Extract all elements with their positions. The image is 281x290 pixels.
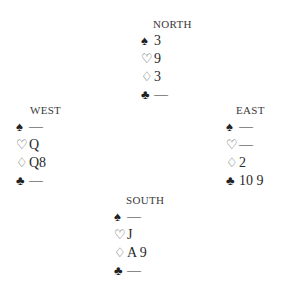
- east-label: EAST: [236, 104, 265, 116]
- north-hand: NORTH ♠3 ♡9 ♢3 ♣—: [141, 18, 192, 104]
- heart-icon: ♡: [114, 226, 127, 244]
- west-label: WEST: [30, 104, 61, 116]
- club-icon: ♣: [16, 172, 29, 190]
- south-clubs: ♣—: [114, 262, 164, 280]
- south-hand: SOUTH ♠— ♡J ♢A 9 ♣—: [114, 194, 164, 280]
- east-hearts: ♡—: [226, 136, 265, 154]
- south-label: SOUTH: [126, 194, 164, 206]
- south-diamonds: ♢A 9: [114, 244, 164, 262]
- diamond-icon: ♢: [16, 154, 29, 172]
- diamond-icon: ♢: [226, 154, 239, 172]
- spade-icon: ♠: [141, 32, 154, 50]
- west-diamonds: ♢Q8: [16, 154, 61, 172]
- west-hearts: ♡Q: [16, 136, 61, 154]
- club-icon: ♣: [226, 172, 239, 190]
- north-clubs: ♣—: [141, 86, 192, 104]
- spade-icon: ♠: [16, 118, 29, 136]
- east-hand: EAST ♠— ♡— ♢2 ♣10 9: [226, 104, 265, 190]
- south-hearts: ♡J: [114, 226, 164, 244]
- spade-icon: ♠: [114, 208, 127, 226]
- diamond-icon: ♢: [114, 244, 127, 262]
- west-spades: ♠—: [16, 118, 61, 136]
- spade-icon: ♠: [226, 118, 239, 136]
- north-label: NORTH: [153, 18, 192, 30]
- diamond-icon: ♢: [141, 68, 154, 86]
- south-spades: ♠—: [114, 208, 164, 226]
- west-hand: WEST ♠— ♡Q ♢Q8 ♣—: [16, 104, 61, 190]
- club-icon: ♣: [114, 262, 127, 280]
- north-diamonds: ♢3: [141, 68, 192, 86]
- north-spades: ♠3: [141, 32, 192, 50]
- east-spades: ♠—: [226, 118, 265, 136]
- club-icon: ♣: [141, 86, 154, 104]
- heart-icon: ♡: [16, 136, 29, 154]
- north-hearts: ♡9: [141, 50, 192, 68]
- east-diamonds: ♢2: [226, 154, 265, 172]
- heart-icon: ♡: [141, 50, 154, 68]
- east-clubs: ♣10 9: [226, 172, 265, 190]
- west-clubs: ♣—: [16, 172, 61, 190]
- heart-icon: ♡: [226, 136, 239, 154]
